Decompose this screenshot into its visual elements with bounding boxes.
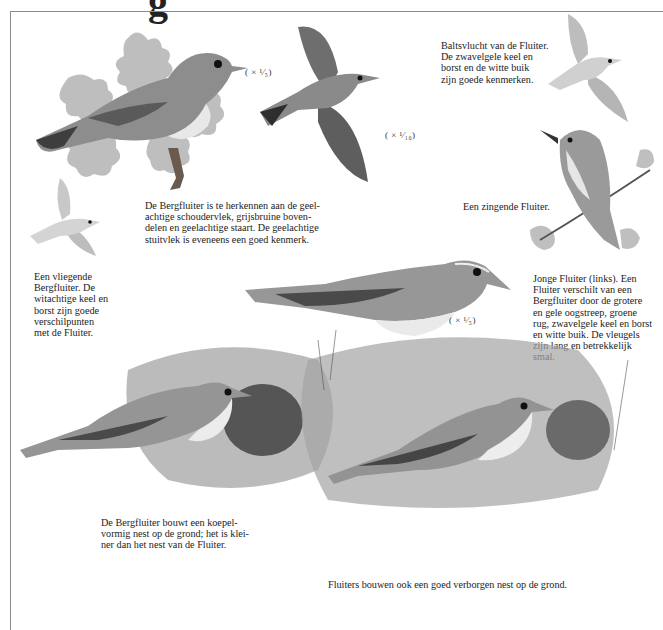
caption-bergfluiter-nest: De Bergfluiter bouwt een koepel- vormig …	[101, 517, 249, 551]
caption-baltsvlucht: Baltsvlucht van de Fluiter. De zwavelgel…	[441, 40, 549, 85]
caption-zingende: Een zingende Fluiter.	[463, 201, 550, 212]
illustration-fluiter-singing	[530, 110, 660, 270]
illustration-bird-flying-top	[258, 22, 388, 182]
caption-bergfluiter-herkennen: De Bergfluiter is te herkennen aan de ge…	[145, 200, 320, 245]
illustration-nest-scene	[18, 330, 638, 520]
illustration-bergfluiter-flying-small	[30, 178, 102, 258]
scale-label-flying: ( × ¹⁄₁₀)	[385, 130, 416, 140]
book-page: g ( × ¹⁄₅)	[0, 0, 663, 630]
illustration-bergfluiter-perched	[18, 18, 248, 193]
caption-vliegende: Een vliegende Bergfluiter. De witachtige…	[34, 271, 108, 338]
caption-fluiter-nest: Fluiters bouwen ook een goed verborgen n…	[328, 579, 567, 590]
illustration-fluiter-display-flight	[548, 14, 638, 124]
frame-left-border	[10, 11, 11, 630]
scale-label-juvenile: ( × ¹⁄₅)	[449, 315, 476, 325]
frame-top-border	[10, 11, 663, 12]
